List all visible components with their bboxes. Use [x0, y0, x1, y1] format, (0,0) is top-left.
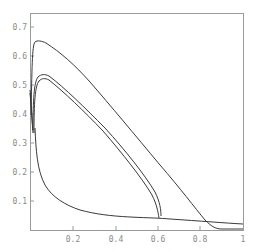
- y-tick-label: 0.1: [13, 197, 28, 206]
- outer-curve: [31, 41, 243, 229]
- y-tick-label: 0.6: [13, 52, 28, 61]
- inner-curve-b: [30, 79, 159, 218]
- x-tick-label: 0.8: [193, 235, 208, 244]
- x-tick-label: 0.4: [109, 235, 124, 244]
- y-tick-label: 0.3: [13, 139, 28, 148]
- x-tick-label: 0.2: [66, 235, 81, 244]
- y-tick-label: 0.2: [13, 168, 28, 177]
- y-tick-label: 0.7: [13, 23, 28, 32]
- chart: 0.1 0.2 0.3 0.4 0.5 0.6 0.7 0.2 0.4 0.6 …: [0, 0, 256, 251]
- plot-frame: [31, 14, 244, 231]
- y-tick-label: 0.5: [13, 81, 28, 90]
- x-tick-label: 0.6: [151, 235, 166, 244]
- plot-curves: [30, 41, 243, 229]
- x-tick-label: 1: [241, 235, 246, 244]
- inner-curve-a: [30, 75, 161, 216]
- y-tick-label: 0.4: [13, 110, 28, 119]
